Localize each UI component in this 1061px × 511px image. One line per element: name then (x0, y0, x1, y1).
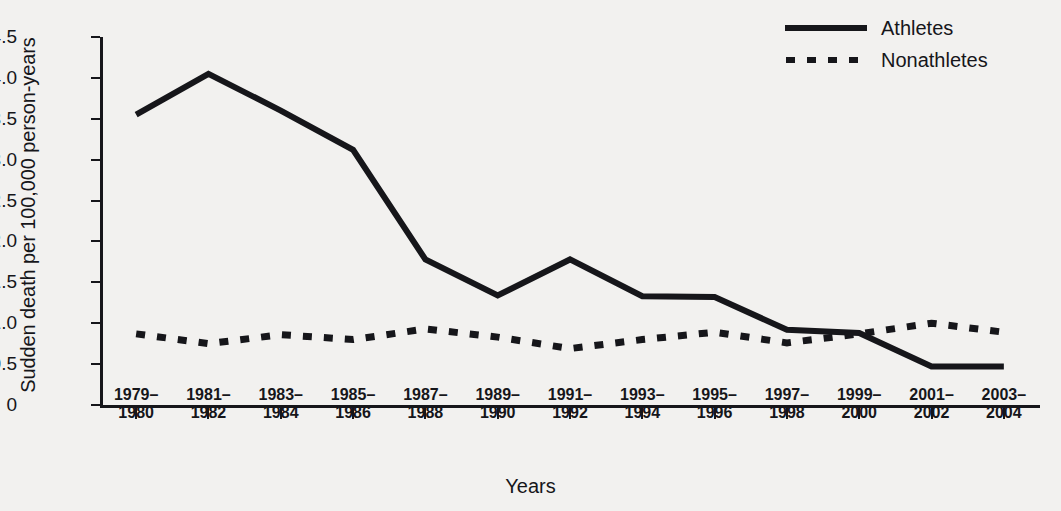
y-axis-tick (91, 118, 100, 120)
y-axis-tick-label: 1.0 (0, 312, 17, 334)
y-axis-tick (91, 240, 100, 242)
y-axis-tick-label: 3.5 (0, 108, 17, 130)
y-axis-tick (91, 322, 100, 324)
y-axis-tick (91, 363, 100, 365)
y-axis-tick-label: 0 (0, 394, 17, 416)
x-axis-tick-label-line: 2004 (958, 404, 1050, 422)
chart-legend: Athletes Nonathletes (785, 12, 1035, 76)
x-axis-tick-label: 2003–2004 (958, 386, 1050, 422)
y-axis-tick-label: 2.0 (0, 230, 17, 252)
legend-swatch-dotted-icon (785, 52, 867, 68)
y-axis-tick-label: 4.5 (0, 26, 17, 48)
legend-label-nonathletes: Nonathletes (881, 49, 988, 72)
series-line-athletes (136, 74, 1004, 367)
x-axis-tick-label-line: 2003– (958, 386, 1050, 404)
y-axis-tick-label: 3.0 (0, 149, 17, 171)
x-axis-title: Years (0, 475, 1061, 498)
chart-figure: Sudden death per 100,000 person-years 00… (0, 0, 1061, 511)
y-axis-tick-label: 2.5 (0, 190, 17, 212)
legend-item-athletes: Athletes (785, 12, 1035, 44)
y-axis-tick-label: 4.0 (0, 67, 17, 89)
y-axis-tick (91, 77, 100, 79)
y-axis-tick (91, 159, 100, 161)
y-axis-tick (91, 281, 100, 283)
plot-area (100, 37, 1040, 405)
series-lines (100, 37, 1040, 405)
y-axis-tick-label: 0.5 (0, 353, 17, 375)
legend-item-nonathletes: Nonathletes (785, 44, 1035, 76)
series-line-nonathletes (136, 323, 1004, 348)
y-axis-tick-label: 1.5 (0, 271, 17, 293)
y-axis-tick (91, 36, 100, 38)
legend-swatch-solid-icon (785, 20, 867, 36)
legend-label-athletes: Athletes (881, 17, 953, 40)
y-axis-tick (91, 200, 100, 202)
